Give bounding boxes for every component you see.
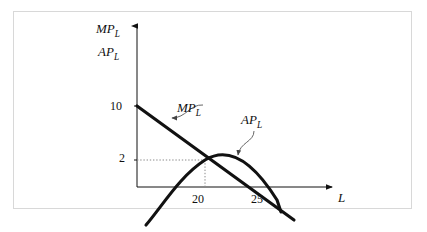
- y-axis-label-mp: MPL: [96, 21, 120, 39]
- ap-leader-line: [238, 131, 254, 155]
- x-axis-label: L: [338, 190, 345, 206]
- x-tick-label-20: 20: [192, 192, 204, 207]
- y-axis-label-ap: APL: [98, 44, 119, 62]
- y-tick-label-2: 2: [119, 151, 125, 166]
- y-axis-label-mp-subscript: L: [115, 29, 120, 39]
- ap-curve-label-text: AP: [241, 112, 257, 127]
- y-axis-label-mp-text: MP: [96, 21, 115, 36]
- y-axis-label-ap-subscript: L: [114, 52, 119, 62]
- y-tick-label-10: 10: [110, 99, 122, 114]
- chart-canvas: [0, 0, 427, 232]
- mp-curve-label-text: MP: [177, 100, 196, 115]
- mp-curve-label: MPL: [177, 100, 201, 118]
- mp-curve-label-subscript: L: [196, 108, 201, 118]
- ap-curve: [146, 155, 281, 225]
- mp-curve: [137, 106, 294, 220]
- ap-curve-label-subscript: L: [257, 120, 262, 130]
- x-tick-label-25: 25: [251, 192, 263, 207]
- y-axis-label-ap-text: AP: [98, 44, 114, 59]
- ap-curve-label: APL: [241, 112, 262, 130]
